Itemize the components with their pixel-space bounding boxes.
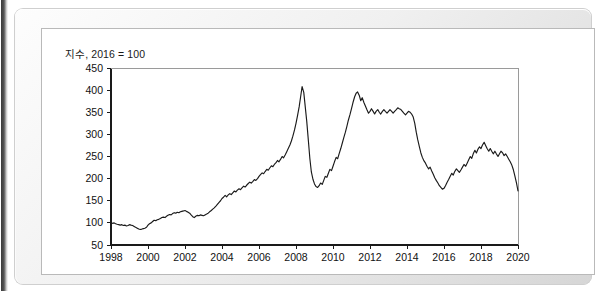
x-tick-label: 2012: [358, 251, 382, 263]
y-tick-label: 100: [85, 216, 103, 228]
x-tick-label: 2016: [432, 251, 456, 263]
x-tick-label: 2000: [136, 251, 160, 263]
x-tick-label: 2008: [284, 251, 308, 263]
x-tick-label: 2002: [173, 251, 197, 263]
y-tick-label: 350: [85, 106, 103, 118]
page-edge-strip: [0, 0, 8, 291]
x-tick-label: 2004: [210, 251, 234, 263]
x-tick-label: 2010: [321, 251, 345, 263]
figure-frame: 지수, 2016 = 100 5010015020025030035040045…: [14, 8, 592, 285]
x-axis-ticks: 1998200020022004200620082010201220142016…: [99, 245, 530, 263]
y-tick-label: 400: [85, 84, 103, 96]
y-tick-label: 150: [85, 194, 103, 206]
y-tick-label: 200: [85, 172, 103, 184]
y-axis-ticks: 50100150200250300350400450: [85, 62, 111, 251]
y-tick-label: 250: [85, 150, 103, 162]
x-tick-label: 1998: [99, 251, 123, 263]
chart-axes: [111, 68, 518, 245]
x-tick-label: 2006: [247, 251, 271, 263]
y-tick-label: 450: [85, 62, 103, 74]
x-tick-label: 2018: [469, 251, 493, 263]
line-chart: 50100150200250300350400450 1998200020022…: [14, 8, 592, 285]
x-tick-label: 2014: [395, 251, 419, 263]
data-series-line: [111, 87, 518, 230]
y-tick-label: 300: [85, 128, 103, 140]
screenshot-root: 지수, 2016 = 100 5010015020025030035040045…: [0, 0, 606, 291]
y-tick-label: 50: [91, 239, 103, 251]
x-tick-label: 2020: [506, 251, 530, 263]
